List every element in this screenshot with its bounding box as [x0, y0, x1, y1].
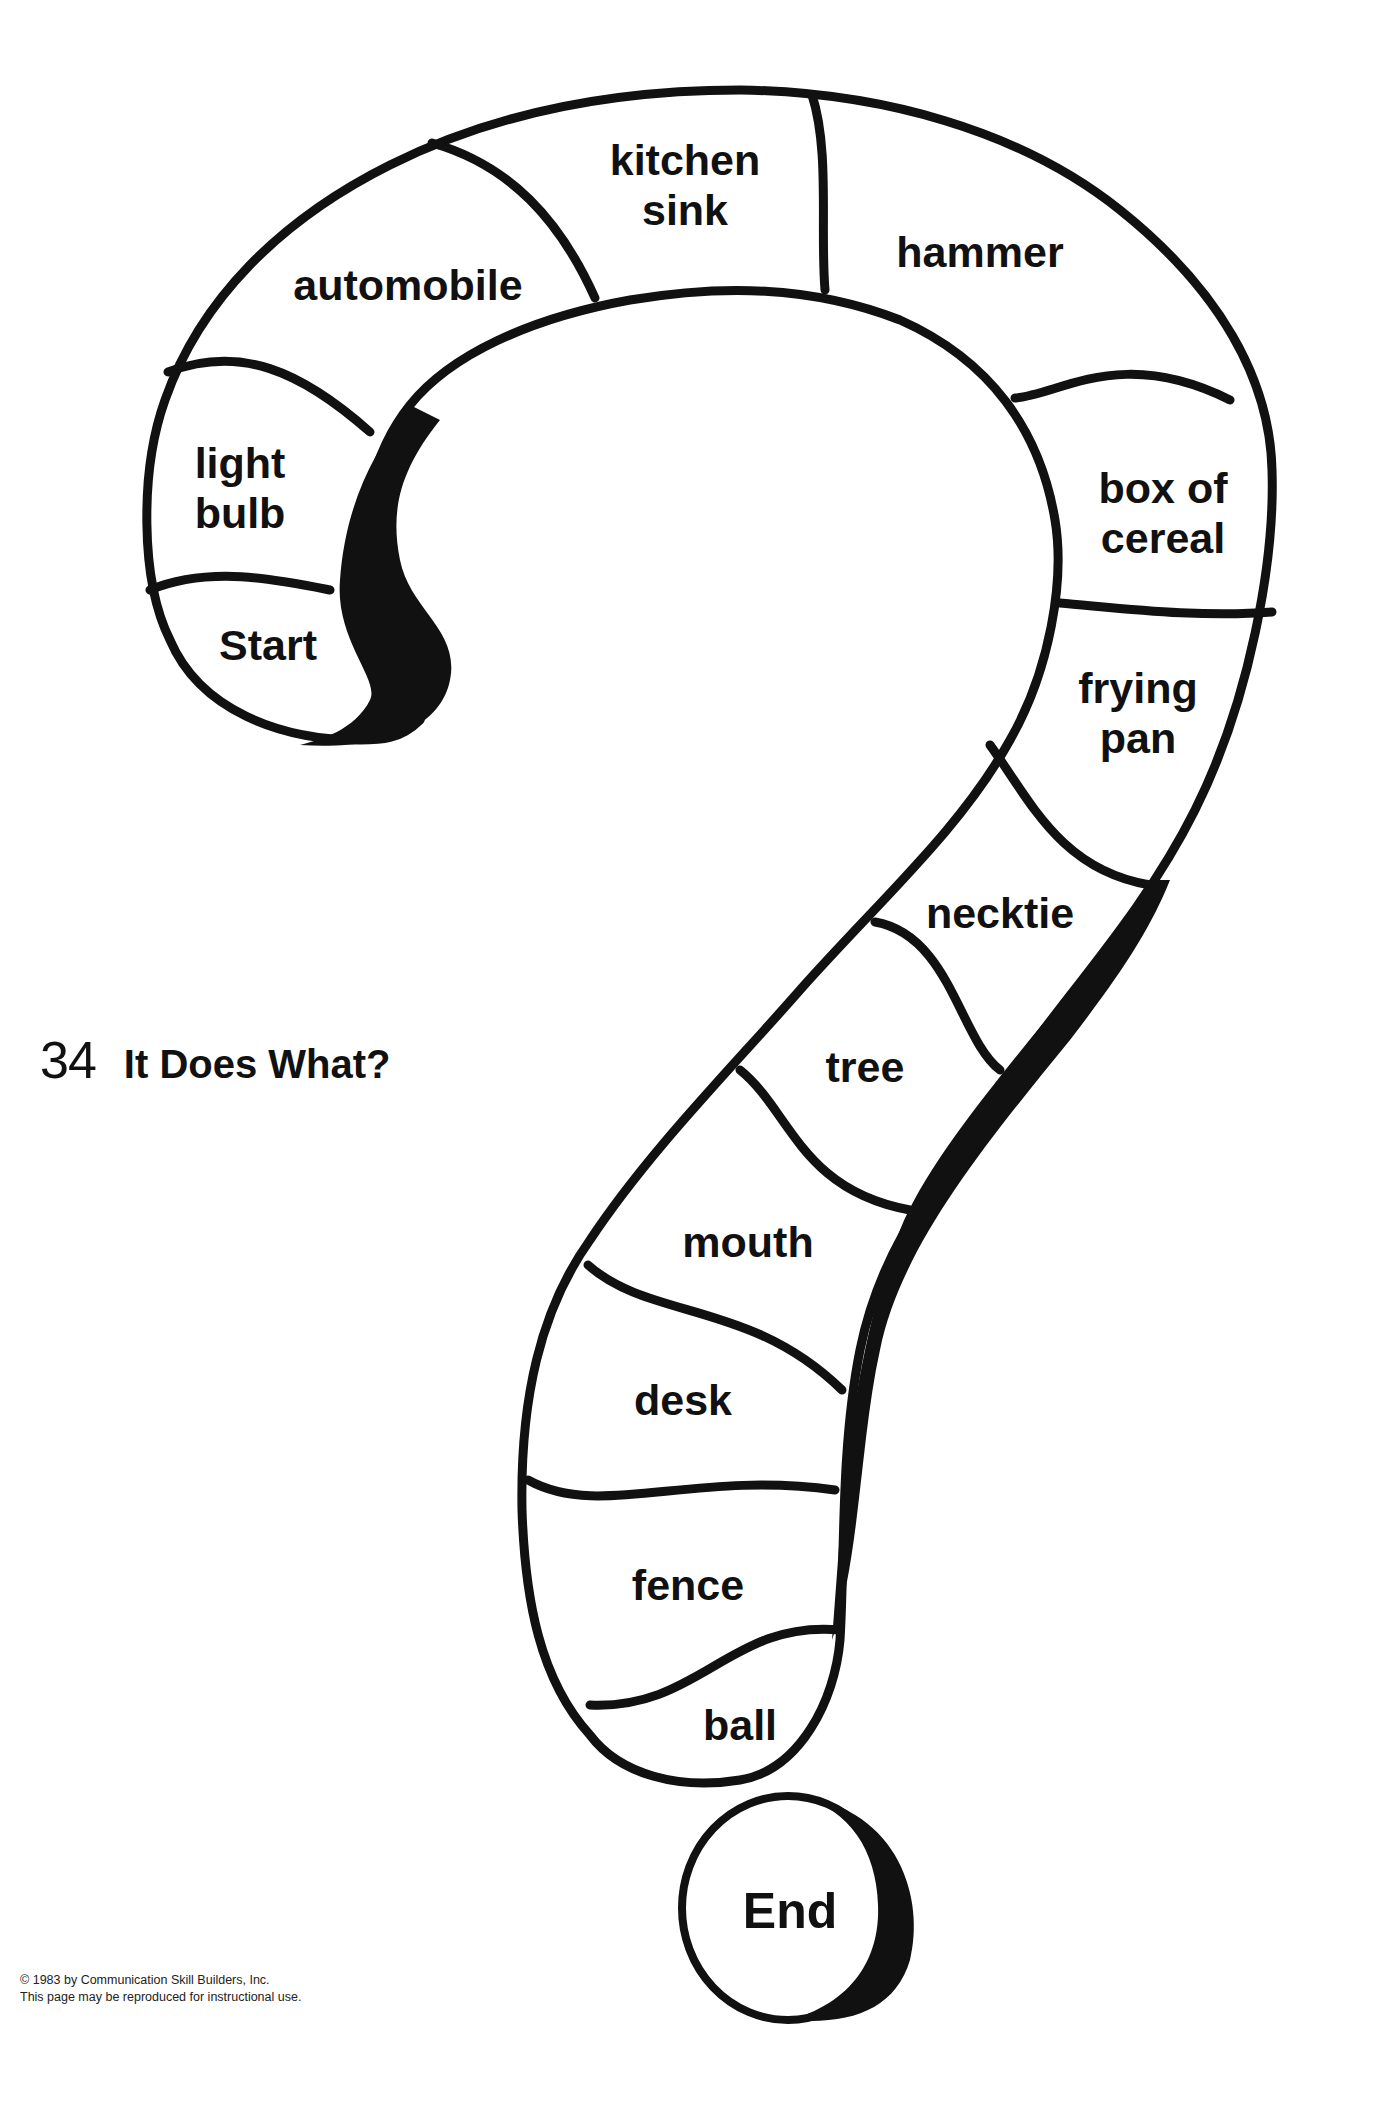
space-label-mouth: mouth	[682, 1218, 813, 1266]
shadow-stem	[832, 880, 1170, 1640]
divider-tree-mouth	[740, 1070, 910, 1210]
divider-desk-fence	[528, 1480, 835, 1496]
board-outer-outline	[147, 90, 1272, 1783]
space-label-frying-pan-2: pan	[1100, 714, 1176, 762]
space-label-fence: fence	[632, 1561, 744, 1609]
permission-notice: This page may be reproduced for instruct…	[20, 1989, 301, 2006]
space-label-kitchen-sink: kitchen	[610, 136, 761, 184]
space-label-box-of-cereal-2: cereal	[1101, 514, 1225, 562]
space-label-ball: ball	[703, 1701, 777, 1749]
divider-fence-ball	[590, 1629, 840, 1705]
space-label-automobile: automobile	[293, 261, 522, 309]
divider-fryingpan-necktie	[990, 745, 1150, 885]
divider-kitchensink-hammer	[812, 95, 825, 290]
start-space-label: Start	[219, 621, 317, 669]
copyright-notice: © 1983 by Communication Skill Builders, …	[20, 1972, 301, 1989]
space-label-light-bulb: light	[195, 439, 286, 487]
space-label-tree: tree	[826, 1043, 905, 1091]
divider-mouth-desk	[588, 1265, 842, 1390]
divider-lightbulb-automobile	[168, 361, 370, 432]
divider-hammer-boxofcereal	[1015, 374, 1230, 400]
space-label-hammer: hammer	[896, 228, 1064, 276]
footer: © 1983 by Communication Skill Builders, …	[20, 1972, 301, 2006]
end-space-label: End	[743, 1883, 837, 1939]
space-label-necktie: necktie	[926, 889, 1074, 937]
divider-boxofcereal-fryingpan	[1060, 603, 1272, 614]
space-label-light-bulb-2: bulb	[195, 489, 286, 537]
page-title: It Does What?	[124, 1042, 391, 1087]
divider-start-lightbulb	[150, 576, 330, 590]
space-label-frying-pan: frying	[1078, 664, 1197, 712]
space-label-desk: desk	[634, 1376, 732, 1424]
shadow-start-curl	[300, 405, 451, 746]
page-heading: 34 It Does What?	[40, 1030, 391, 1090]
space-label-kitchen-sink-2: sink	[642, 186, 728, 234]
space-label-box-of-cereal: box of	[1099, 464, 1229, 512]
page-number: 34	[40, 1030, 96, 1090]
